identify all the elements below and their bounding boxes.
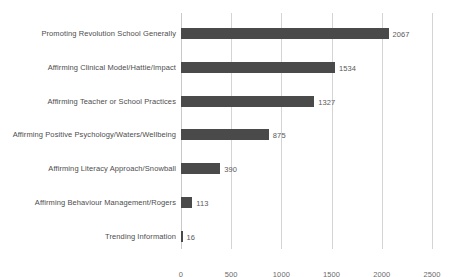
bar-row: 2067 — [181, 28, 432, 39]
bar-value-label: 113 — [192, 198, 208, 207]
bar — [181, 163, 220, 174]
category-label: Affirming Teacher or School Practices — [48, 97, 176, 106]
bar — [181, 62, 335, 73]
bar-row: 113 — [181, 197, 432, 208]
category-label: Affirming Clinical Model/Hattie/Impact — [48, 63, 176, 72]
x-tick-label: 2000 — [373, 270, 390, 277]
bar — [181, 129, 269, 140]
bar-chart: Promoting Revolution School Generally Af… — [0, 0, 458, 277]
category-label: Trending Information — [105, 232, 176, 241]
bar-row: 390 — [181, 163, 432, 174]
category-label: Affirming Behaviour Management/Rogers — [35, 198, 176, 207]
bar-row: 16 — [181, 231, 432, 242]
bar — [181, 197, 192, 208]
bar-row: 1327 — [181, 96, 432, 107]
x-tick-label: 500 — [225, 270, 238, 277]
bar-value-label: 390 — [220, 164, 237, 173]
plot-area: 2067 1534 1327 875 390 113 16 0 500 — [181, 13, 432, 249]
category-label: Promoting Revolution School Generally — [41, 29, 176, 38]
bar-value-label: 875 — [269, 130, 286, 139]
x-tick-label: 0 — [179, 270, 183, 277]
bar-value-label: 16 — [183, 232, 196, 241]
bar-value-label: 1534 — [335, 63, 356, 72]
category-label: Affirming Literacy Approach/Snowball — [48, 164, 176, 173]
x-tick-label: 1000 — [273, 270, 290, 277]
bar-value-label: 2067 — [389, 29, 410, 38]
bar-value-label: 1327 — [314, 97, 335, 106]
gridline-2500 — [432, 13, 433, 249]
category-label: Affirming Positive Psychology/Waters/Wel… — [13, 130, 176, 139]
bar-row: 1534 — [181, 62, 432, 73]
bar-row: 875 — [181, 129, 432, 140]
x-tick-label: 1500 — [323, 270, 340, 277]
x-tick-label: 2500 — [423, 270, 440, 277]
bar — [181, 96, 314, 107]
bar — [181, 28, 389, 39]
